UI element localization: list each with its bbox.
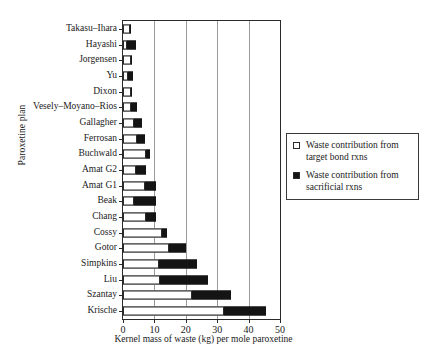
bar-row: Hayashi <box>123 37 280 53</box>
y-axis-category-label: Takasu–Ihara <box>66 24 117 34</box>
bar-row: Amat G1 <box>123 178 280 194</box>
y-axis-category-label: Gallagher <box>80 118 117 128</box>
bar-row: Dixon <box>123 84 280 100</box>
bar-row: Buchwald <box>123 146 280 162</box>
plot-area: Takasu–IharaHayashiJorgensenYuDixonVesel… <box>122 20 281 320</box>
bar-segment-target-bond <box>123 40 127 49</box>
y-axis-category-label: Simpkins <box>81 259 117 269</box>
bar-segment-target-bond <box>123 134 137 143</box>
legend-entry: Waste contribution fromtarget bond rxns <box>293 140 412 163</box>
y-axis-category-label: Vesely–Moyano–Rios <box>33 102 117 112</box>
y-axis-category-label: Beak <box>97 197 117 207</box>
y-axis-title: Paroxetine plan <box>17 65 27 205</box>
bar-segment-target-bond <box>123 24 130 33</box>
y-axis-category-label: Krische <box>87 306 117 316</box>
y-axis-category-label: Jorgensen <box>79 55 117 65</box>
y-axis-category-label: Buchwald <box>78 150 117 160</box>
bar-row: Amat G2 <box>123 162 280 178</box>
y-axis-category-label: Amat G2 <box>82 165 117 175</box>
y-axis-category-label: Ferrosan <box>84 134 117 144</box>
bar-segment-target-bond <box>123 197 134 206</box>
y-axis-category-label: Liu <box>104 275 117 285</box>
bar-segment-target-bond <box>123 118 134 127</box>
y-axis-category-label: Hayashi <box>86 40 117 50</box>
bar-segment-target-bond <box>123 181 145 190</box>
bar-row: Szantay <box>123 288 280 304</box>
legend-label: Waste contribution fromsacrificial rxns <box>306 170 399 193</box>
legend-swatch-filled-icon <box>293 172 300 179</box>
x-axis-tick <box>249 319 250 323</box>
legend-swatch-hollow-icon <box>293 142 300 149</box>
bar-row: Simpkins <box>123 256 280 272</box>
bar-segment-target-bond <box>123 71 128 80</box>
bar-segment-target-bond <box>123 307 224 316</box>
y-axis-category-label: Gotor <box>95 244 117 254</box>
y-axis-category-label: Amat G1 <box>82 181 117 191</box>
bar-segment-target-bond <box>123 103 131 112</box>
bar-row: Ferrosan <box>123 131 280 147</box>
x-axis-tick <box>280 319 281 323</box>
bar-row: Vesely–Moyano–Rios <box>123 99 280 115</box>
legend-label: Waste contribution fromtarget bond rxns <box>306 140 399 163</box>
bar-segment-target-bond <box>123 291 192 300</box>
bar-segment-target-bond <box>123 260 159 269</box>
bar-row: Liu <box>123 272 280 288</box>
bar-row: Cossy <box>123 225 280 241</box>
bar-row: Gotor <box>123 241 280 257</box>
y-axis-category-label: Cossy <box>94 228 117 238</box>
y-axis-category-label: Szantay <box>87 291 117 301</box>
y-axis-category-label: Yu <box>106 71 117 81</box>
bar-segment-target-bond <box>123 87 131 96</box>
bar-segment-target-bond <box>123 244 169 253</box>
bar-row: Gallagher <box>123 115 280 131</box>
y-axis-category-label: Dixon <box>93 87 117 97</box>
x-axis-title: Kernel mass of waste (kg) per mole parox… <box>96 334 311 344</box>
bar-row: Jorgensen <box>123 52 280 68</box>
bar-segment-target-bond <box>123 56 131 65</box>
x-axis-tick <box>217 319 218 323</box>
chart-legend: Waste contribution fromtarget bond rxnsW… <box>286 133 419 200</box>
bar-segment-target-bond <box>123 150 146 159</box>
bar-segment-target-bond <box>123 275 160 284</box>
y-axis-category-label: Chang <box>92 212 117 222</box>
chart-figure: Paroxetine plan Takasu–IharaHayashiJorge… <box>0 0 430 360</box>
bar-row: Yu <box>123 68 280 84</box>
bar-row: Chang <box>123 209 280 225</box>
bar-row: Krische <box>123 303 280 319</box>
bar-row: Takasu–Ihara <box>123 21 280 37</box>
x-axis-tick <box>154 319 155 323</box>
bar-segment-target-bond <box>123 228 162 237</box>
bar-segment-target-bond <box>123 213 146 222</box>
bar-row: Beak <box>123 194 280 210</box>
bar-segment-target-bond <box>123 165 136 174</box>
x-axis-tick <box>186 319 187 323</box>
legend-entry: Waste contribution fromsacrificial rxns <box>293 170 412 193</box>
x-axis-tick <box>123 319 124 323</box>
